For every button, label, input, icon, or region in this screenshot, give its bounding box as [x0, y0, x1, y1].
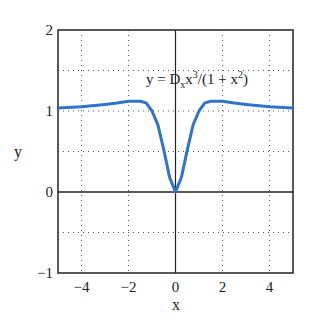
- svg-text:0: 0: [172, 279, 180, 295]
- x-axis-label: x: [172, 296, 180, 313]
- svg-text:2: 2: [46, 22, 54, 38]
- x-tick-labels: −4−2024: [74, 279, 274, 295]
- svg-text:1: 1: [46, 103, 54, 119]
- svg-text:2: 2: [219, 279, 227, 295]
- svg-text:0: 0: [46, 184, 54, 200]
- equation-annotation: y = Dxx3/(1 + x2): [146, 69, 248, 90]
- svg-text:−2: −2: [121, 279, 137, 295]
- chart: −4−2024 −1012 x y y = Dxx3/(1 + x2): [0, 0, 312, 328]
- y-axis-label: y: [14, 143, 22, 161]
- y-tick-labels: −1012: [37, 22, 53, 281]
- svg-text:−4: −4: [74, 279, 90, 295]
- svg-text:−1: −1: [37, 265, 53, 281]
- svg-text:4: 4: [266, 279, 274, 295]
